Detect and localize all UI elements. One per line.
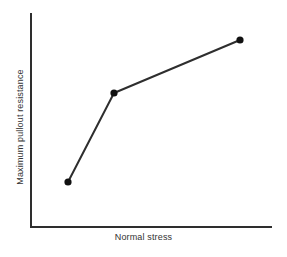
data-point-marker — [110, 89, 117, 96]
data-point-marker — [64, 178, 71, 185]
data-point-marker — [236, 36, 243, 43]
data-point-markers — [64, 36, 243, 185]
y-axis-label: Maximum pullout resistance — [15, 69, 25, 184]
chart-figure: Normal stress Maximum pullout resistance — [0, 0, 287, 257]
plot-canvas — [0, 0, 287, 257]
x-axis-label: Normal stress — [0, 232, 287, 242]
data-series-line — [68, 40, 240, 182]
